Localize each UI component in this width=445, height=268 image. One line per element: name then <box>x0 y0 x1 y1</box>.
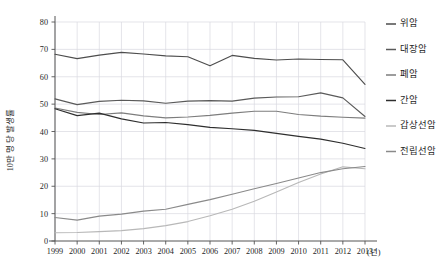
x-tick-label: 2001 <box>91 247 107 256</box>
x-tick-label: 2010 <box>290 247 306 256</box>
y-tick-label: 60 <box>40 73 48 82</box>
y-tick-label: 80 <box>40 18 48 27</box>
x-tick-label: 2002 <box>113 247 129 256</box>
y-tick-label: 0 <box>44 237 48 246</box>
y-tick-label: 10 <box>40 210 48 219</box>
x-tick-label: 2007 <box>224 247 240 256</box>
x-tick-label: 2012 <box>335 247 351 256</box>
x-tick-label: 2006 <box>202 247 218 256</box>
y-tick-label: 20 <box>40 182 48 191</box>
cancer-incidence-line-chart: 01020304050607080 1999200020012002200320… <box>0 0 445 268</box>
legend-label-갑상선암: 갑상선암 <box>400 119 436 130</box>
x-tick-label: 1999 <box>47 247 63 256</box>
x-tick-label: 2008 <box>246 247 262 256</box>
y-axis-ticks: 01020304050607080 <box>40 18 55 246</box>
x-tick-label: 2000 <box>69 247 85 256</box>
x-axis-ticks: 1999200020012002200320042005200620072008… <box>47 241 373 256</box>
x-tick-label: 2009 <box>268 247 284 256</box>
legend-label-위암: 위암 <box>400 17 418 28</box>
y-tick-label: 40 <box>40 128 48 137</box>
y-tick-label: 70 <box>40 45 48 54</box>
legend-label-대장암: 대장암 <box>400 43 427 54</box>
x-tick-label: 2005 <box>180 247 196 256</box>
legend: 위암대장암폐암간암갑상선암전립선암 <box>386 17 436 156</box>
y-tick-label: 50 <box>40 100 48 109</box>
y-tick-label: 30 <box>40 155 48 164</box>
legend-label-전립선암: 전립선암 <box>400 145 436 156</box>
axes <box>49 16 377 241</box>
x-axis-title: (년) <box>367 247 381 257</box>
x-tick-label: 2003 <box>135 247 151 256</box>
legend-label-폐암: 폐암 <box>400 68 418 79</box>
x-tick-label: 2004 <box>158 247 174 256</box>
legend-label-간암: 간암 <box>400 94 418 105</box>
chart-svg: 01020304050607080 1999200020012002200320… <box>0 0 445 268</box>
x-tick-label: 2011 <box>313 247 329 256</box>
y-axis-title: 10만 명 당 발생률 <box>5 109 15 172</box>
